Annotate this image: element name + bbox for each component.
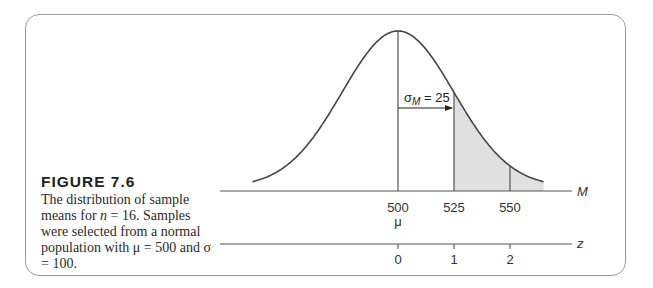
svg-text:2: 2	[506, 252, 513, 267]
svg-text:0: 0	[394, 252, 401, 267]
svg-text:550: 550	[499, 200, 521, 215]
z-axis-ticks: 012	[394, 244, 513, 267]
m-axis-label: M	[577, 184, 588, 199]
svg-text:500: 500	[387, 200, 409, 215]
z-axis-label: z	[576, 236, 584, 251]
m-axis-ticks: 500525550	[387, 200, 521, 215]
sigma-annotation: σM = 25	[404, 90, 450, 107]
mu-marker: μ	[394, 214, 402, 229]
svg-text:1: 1	[450, 252, 457, 267]
shaded-tail-region	[454, 92, 544, 191]
svg-text:525: 525	[443, 200, 465, 215]
normal-distribution-chart: M 500525550 μ z 012 σM = 25	[0, 0, 653, 288]
